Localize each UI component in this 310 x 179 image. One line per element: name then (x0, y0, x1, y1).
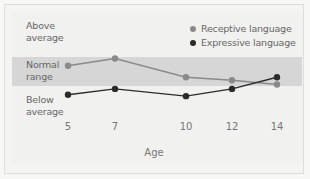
data-point (229, 86, 235, 92)
data-point (229, 77, 235, 83)
x-tick-7: 7 (112, 121, 118, 132)
data-point (183, 93, 189, 99)
data-point (65, 62, 71, 68)
data-point (112, 55, 118, 61)
x-tick-10: 10 (180, 121, 193, 132)
data-point (112, 86, 118, 92)
receptive-language-line (68, 58, 277, 84)
x-tick-5: 5 (65, 121, 71, 132)
x-axis-label: Age (144, 147, 163, 158)
expressive-language-points (65, 74, 280, 99)
data-point (274, 74, 280, 80)
data-point (65, 92, 71, 98)
receptive-language-points (65, 55, 280, 88)
x-tick-12: 12 (226, 121, 239, 132)
expressive-language-line (68, 77, 277, 96)
data-point (183, 74, 189, 80)
x-tick-14: 14 (271, 121, 284, 132)
data-point (274, 81, 280, 87)
